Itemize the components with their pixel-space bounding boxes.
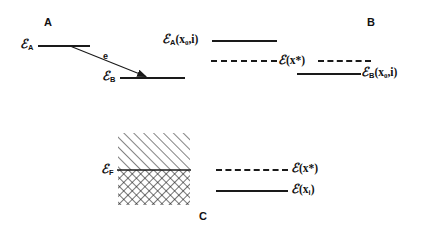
level-b-lower: [297, 73, 361, 75]
label-energy-b-symbol: ℰ: [102, 69, 110, 83]
label-energy-b-x0i-symbol: ℰ: [361, 65, 369, 79]
level-a-lower: [120, 77, 185, 79]
legend-label-initial-state-close: ): [311, 183, 315, 195]
legend-label-initial-state-symbol: ℰ: [291, 182, 299, 196]
label-fermi-energy: ℰF: [101, 163, 114, 176]
level-a-upper: [38, 45, 90, 47]
label-fermi-energy-symbol: ℰ: [101, 162, 109, 176]
panel-letter-b: B: [367, 17, 375, 28]
label-energy-b-subscript: B: [110, 75, 115, 84]
band-occupancy-box: [118, 133, 190, 205]
legend-label-transition-state-args: (x*): [299, 162, 318, 174]
legend-label-transition-state: ℰ(x*): [291, 162, 318, 175]
label-energy-a: ℰA: [20, 38, 33, 51]
energy-level-diagram-figure: A ℰA ℰB e B ℰA(x₀,i) ℰ(x*) ℰB(x₀,i) ℰF ℰ…: [0, 0, 424, 228]
legend-line-initial-state: [216, 190, 288, 192]
label-energy-a-symbol: ℰ: [20, 37, 28, 51]
label-energy-b: ℰB: [102, 70, 115, 83]
legend-label-initial-state: ℰ(xi): [291, 183, 315, 196]
level-b-upper: [212, 40, 277, 42]
label-energy-b-x0i-args: (x₀,i): [374, 66, 397, 78]
label-transition-state-b: ℰ(x*): [278, 54, 305, 67]
label-energy-a-subscript: A: [28, 43, 33, 52]
label-fermi-energy-subscript: F: [109, 168, 114, 177]
legend-label-initial-state-args: (x: [299, 183, 309, 195]
figure-vector-overlay: [0, 0, 424, 228]
panel-letter-a: A: [44, 17, 52, 28]
legend-label-transition-state-symbol: ℰ: [291, 161, 299, 175]
electron-transition-label: e: [103, 52, 108, 61]
label-energy-a-x0i: ℰA(x₀,i): [162, 33, 198, 46]
label-transition-state-b-symbol: ℰ: [278, 53, 286, 67]
legend-line-transition-state: [216, 169, 288, 171]
label-energy-b-x0i: ℰB(x₀,i): [361, 66, 397, 79]
panel-letter-c: C: [199, 211, 207, 222]
level-b-transition-state-left: [211, 60, 277, 62]
label-energy-a-x0i-symbol: ℰ: [162, 32, 170, 46]
label-transition-state-b-args: (x*): [286, 54, 305, 66]
level-b-transition-state-right: [318, 60, 371, 62]
label-energy-a-x0i-args: (x₀,i): [175, 33, 198, 45]
